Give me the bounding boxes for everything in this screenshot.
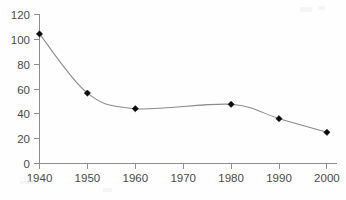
y-tick-label-60: 60 [17,84,30,96]
y-tick-label-40: 40 [17,108,30,120]
x-tick-label-1970: 1970 [170,172,196,184]
chart-canvas: 120 100 80 60 40 20 0 [0,0,346,200]
x-axis-ticks [40,164,327,170]
x-tick-label-1940: 1940 [27,172,53,184]
chart-screenshot: 120 100 80 60 40 20 0 [0,0,346,200]
y-tick-label-100: 100 [11,34,30,46]
data-point-marker [228,101,234,107]
series-markers [36,31,330,136]
y-axis-ticks [34,15,40,164]
line-chart: 120 100 80 60 40 20 0 [0,0,346,200]
y-tick-label-80: 80 [17,59,30,71]
x-tick-label-1980: 1980 [218,172,244,184]
x-tick-label-1960: 1960 [123,172,149,184]
x-tick-label-2000: 2000 [314,172,340,184]
y-axis-tick-labels: 120 100 80 60 40 20 0 [11,9,30,170]
x-tick-label-1950: 1950 [75,172,101,184]
data-point-marker [132,106,138,112]
y-tick-label-0: 0 [24,158,30,170]
x-axis: 1940 1950 1960 1970 1980 1990 2000 [27,164,340,185]
series-line-1 [40,34,327,132]
x-tick-label-1990: 1990 [266,172,292,184]
data-point-marker [324,129,330,135]
y-axis: 120 100 80 60 40 20 0 [11,9,40,170]
y-tick-label-20: 20 [17,133,30,145]
plot-area [36,31,330,136]
y-tick-label-120: 120 [11,9,30,21]
data-point-marker [276,116,282,122]
x-axis-tick-labels: 1940 1950 1960 1970 1980 1990 2000 [27,172,340,184]
